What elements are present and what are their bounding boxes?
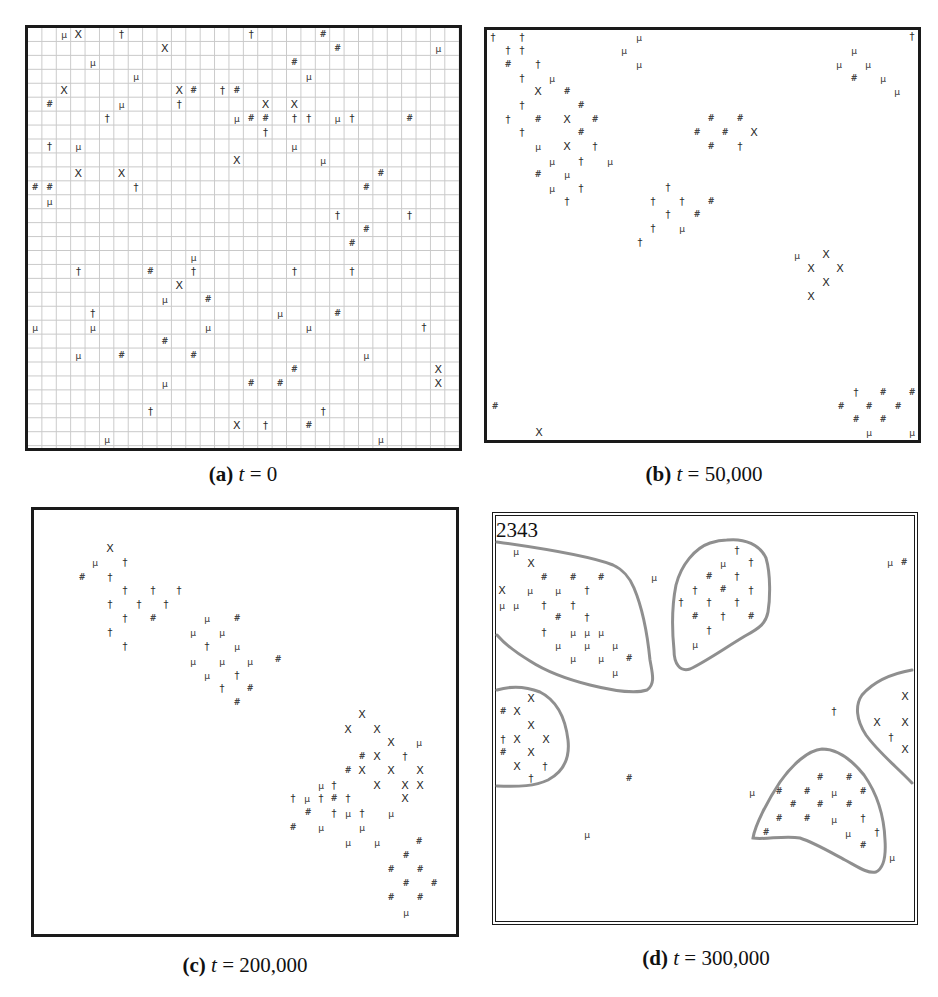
dagger-agent-icon: † <box>703 626 715 636</box>
hash-agent-icon: # <box>260 114 272 124</box>
dagger-agent-icon: † <box>119 586 131 596</box>
mu-agent-icon: μ <box>791 251 803 261</box>
mu-agent-icon: μ <box>828 788 840 798</box>
dagger-agent-icon: † <box>647 224 659 234</box>
hash-agent-icon: # <box>497 707 509 717</box>
hash-agent-icon: # <box>857 841 869 851</box>
dagger-agent-icon: † <box>717 612 729 622</box>
dagger-agent-icon: † <box>516 128 528 138</box>
caption-d-label: (d) <box>642 946 668 970</box>
dagger-agent-icon: † <box>497 735 509 745</box>
mu-agent-icon: μ <box>72 142 84 152</box>
hash-agent-icon: # <box>843 800 855 810</box>
mu-agent-icon: μ <box>187 628 199 638</box>
dagger-agent-icon: † <box>418 323 430 333</box>
dagger-agent-icon: † <box>245 30 257 40</box>
mu-agent-icon: μ <box>315 781 327 791</box>
hash-agent-icon: # <box>342 766 354 776</box>
hash-agent-icon: # <box>188 86 200 96</box>
mu-agent-icon: μ <box>609 668 621 678</box>
mu-agent-icon: μ <box>862 60 874 70</box>
mu-agent-icon: μ <box>863 428 875 438</box>
mu-agent-icon: μ <box>432 44 444 54</box>
dagger-agent-icon: † <box>399 752 411 762</box>
x-agent-icon: X <box>899 692 911 702</box>
mu-agent-icon: μ <box>717 559 729 569</box>
dagger-agent-icon: † <box>516 74 528 84</box>
mu-agent-icon: μ <box>274 309 286 319</box>
dagger-agent-icon: † <box>539 762 551 772</box>
dagger-agent-icon: † <box>144 407 156 417</box>
mu-agent-icon: μ <box>342 809 354 819</box>
x-agent-icon: X <box>288 100 300 110</box>
hash-agent-icon: # <box>231 698 243 708</box>
dagger-agent-icon: † <box>676 197 688 207</box>
x-agent-icon: X <box>561 115 573 125</box>
x-agent-icon: X <box>899 718 911 728</box>
hash-agent-icon: # <box>623 774 635 784</box>
dagger-agent-icon: † <box>119 642 131 652</box>
dagger-agent-icon: † <box>487 33 499 43</box>
x-agent-icon: X <box>511 762 523 772</box>
mu-agent-icon: μ <box>561 170 573 180</box>
x-agent-icon: X <box>805 292 817 302</box>
dagger-agent-icon: † <box>647 197 659 207</box>
dagger-agent-icon: † <box>216 684 228 694</box>
dagger-agent-icon: † <box>288 267 300 277</box>
hash-agent-icon: # <box>906 388 918 398</box>
hash-agent-icon: # <box>76 573 88 583</box>
mu-agent-icon: μ <box>231 114 243 124</box>
mu-agent-icon: μ <box>510 601 522 611</box>
dagger-agent-icon: † <box>662 183 674 193</box>
hash-agent-icon: # <box>497 748 509 758</box>
hash-agent-icon: # <box>595 573 607 583</box>
panel-d: μX###μXμμ†μμ††#††μμμμμμμμ#μ†μ†#††#††††#†… <box>492 512 918 925</box>
mu-agent-icon: μ <box>58 30 70 40</box>
mu-agent-icon: μ <box>342 838 354 848</box>
dagger-agent-icon: † <box>116 30 128 40</box>
mu-agent-icon: μ <box>877 74 889 84</box>
dagger-agent-icon: † <box>147 586 159 596</box>
mu-agent-icon: μ <box>360 351 372 361</box>
x-agent-icon: X <box>72 169 84 179</box>
panel-b: ††μ†††μμ#†μμμ†μ#μX#μ†#†#X###†###XμX†#†μ†… <box>484 27 921 443</box>
mu-agent-icon: μ <box>848 46 860 56</box>
dagger-agent-icon: † <box>538 601 550 611</box>
mu-agent-icon: μ <box>356 823 368 833</box>
dagger-agent-icon: † <box>104 628 116 638</box>
dagger-agent-icon: † <box>260 421 272 431</box>
x-agent-icon: X <box>356 766 368 776</box>
hash-agent-icon: # <box>719 128 731 138</box>
mu-agent-icon: μ <box>303 72 315 82</box>
hash-agent-icon: # <box>29 183 41 193</box>
x-agent-icon: X <box>532 87 544 97</box>
dagger-agent-icon: † <box>516 101 528 111</box>
dagger-agent-icon: † <box>342 794 354 804</box>
hash-agent-icon: # <box>717 585 729 595</box>
hash-agent-icon: # <box>814 800 826 810</box>
hash-agent-icon: # <box>360 225 372 235</box>
mu-agent-icon: μ <box>689 640 701 650</box>
mu-agent-icon: μ <box>595 654 607 664</box>
mu-agent-icon: μ <box>216 628 228 638</box>
caption-a-value: = 0 <box>244 462 277 486</box>
x-agent-icon: X <box>871 718 883 728</box>
hash-agent-icon: # <box>375 169 387 179</box>
hash-agent-icon: # <box>44 100 56 110</box>
hash-agent-icon: # <box>877 388 889 398</box>
hash-agent-icon: # <box>734 114 746 124</box>
dagger-agent-icon: † <box>734 142 746 152</box>
dagger-agent-icon: † <box>130 183 142 193</box>
hash-agent-icon: # <box>231 86 243 96</box>
mu-agent-icon: μ <box>413 738 425 748</box>
dagger-agent-icon: † <box>356 809 368 819</box>
hash-agent-icon: # <box>400 879 412 889</box>
dagger-agent-icon: † <box>101 114 113 124</box>
caption-c: (c) t = 200,000 <box>183 953 308 978</box>
caption-b: (b) t = 50,000 <box>646 462 763 487</box>
dagger-agent-icon: † <box>575 157 587 167</box>
dagger-agent-icon: † <box>287 794 299 804</box>
dagger-agent-icon: † <box>188 267 200 277</box>
mu-agent-icon: μ <box>288 142 300 152</box>
dagger-agent-icon: † <box>119 558 131 568</box>
